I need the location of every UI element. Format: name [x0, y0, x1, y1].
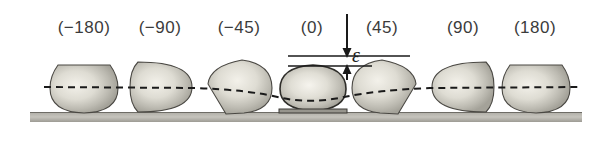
angle-label-6: (180) — [514, 18, 556, 38]
angle-label-4: (45) — [366, 18, 398, 38]
angle-label-1: (−90) — [139, 18, 182, 38]
angle-label-0: (−180) — [58, 18, 111, 38]
epsilon-symbol: ε — [352, 45, 360, 65]
angle-label-2: (−45) — [218, 18, 261, 38]
figure-container: ε (−180)(−90)(−45)(0)(45)(90)(180) — [0, 0, 610, 143]
angle-label-5: (90) — [447, 18, 479, 38]
angle-label-3: (0) — [301, 18, 323, 38]
